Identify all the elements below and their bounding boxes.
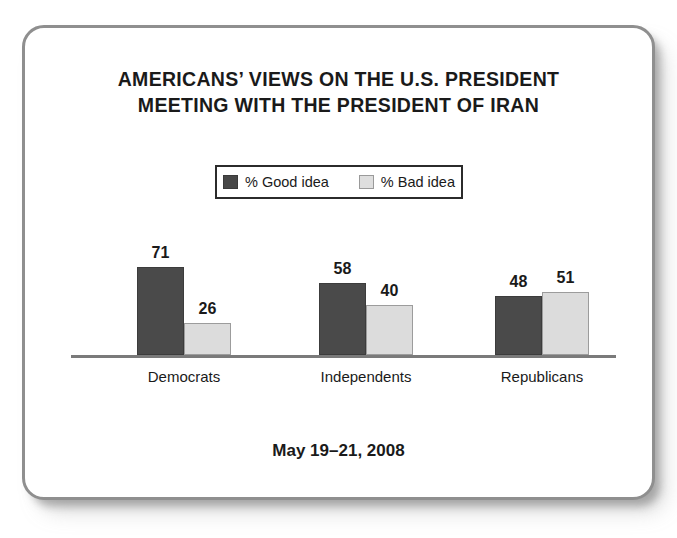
chart-legend: % Good idea % Bad idea	[215, 165, 463, 199]
legend-label-good-idea: % Good idea	[245, 174, 329, 190]
chart-title: AMERICANS’ VIEWS ON THE U.S. PRESIDENT M…	[25, 66, 652, 118]
legend-entry-bad-idea: % Bad idea	[359, 174, 455, 190]
plot-area: 71 26 58 40 48	[71, 233, 616, 358]
bar-pair-democrats: 71 26	[137, 267, 231, 355]
bar-value-independents-good-idea: 58	[334, 260, 352, 278]
bar-pair-republicans: 48 51	[495, 292, 589, 355]
bar-democrats-bad-idea: 26	[184, 323, 231, 355]
chart-title-line-1: AMERICANS’ VIEWS ON THE U.S. PRESIDENT	[25, 66, 652, 92]
category-label-republicans: Republicans	[501, 368, 584, 385]
bar-value-independents-bad-idea: 40	[381, 282, 399, 300]
bar-value-democrats-bad-idea: 26	[199, 300, 217, 318]
bar-pair-independents: 58 40	[319, 283, 413, 355]
survey-date-footer: May 19–21, 2008	[25, 441, 652, 461]
legend-entry-good-idea: % Good idea	[223, 174, 329, 190]
legend-swatch-bad-idea	[359, 175, 374, 189]
bar-independents-good-idea: 58	[319, 283, 366, 355]
legend-swatch-good-idea	[223, 175, 238, 189]
axis-baseline	[71, 355, 616, 358]
bar-republicans-good-idea: 48	[495, 296, 542, 355]
chart-title-line-2: MEETING WITH THE PRESIDENT OF IRAN	[25, 92, 652, 118]
category-label-democrats: Democrats	[148, 368, 221, 385]
category-label-independents: Independents	[321, 368, 412, 385]
bar-value-democrats-good-idea: 71	[152, 244, 170, 262]
bar-republicans-bad-idea: 51	[542, 292, 589, 355]
bar-value-republicans-bad-idea: 51	[557, 269, 575, 287]
category-axis-labels: Democrats Independents Republicans	[71, 368, 616, 390]
chart-card: AMERICANS’ VIEWS ON THE U.S. PRESIDENT M…	[22, 25, 655, 500]
bar-independents-bad-idea: 40	[366, 305, 413, 355]
bar-democrats-good-idea: 71	[137, 267, 184, 355]
legend-label-bad-idea: % Bad idea	[381, 174, 455, 190]
bar-value-republicans-good-idea: 48	[510, 273, 528, 291]
